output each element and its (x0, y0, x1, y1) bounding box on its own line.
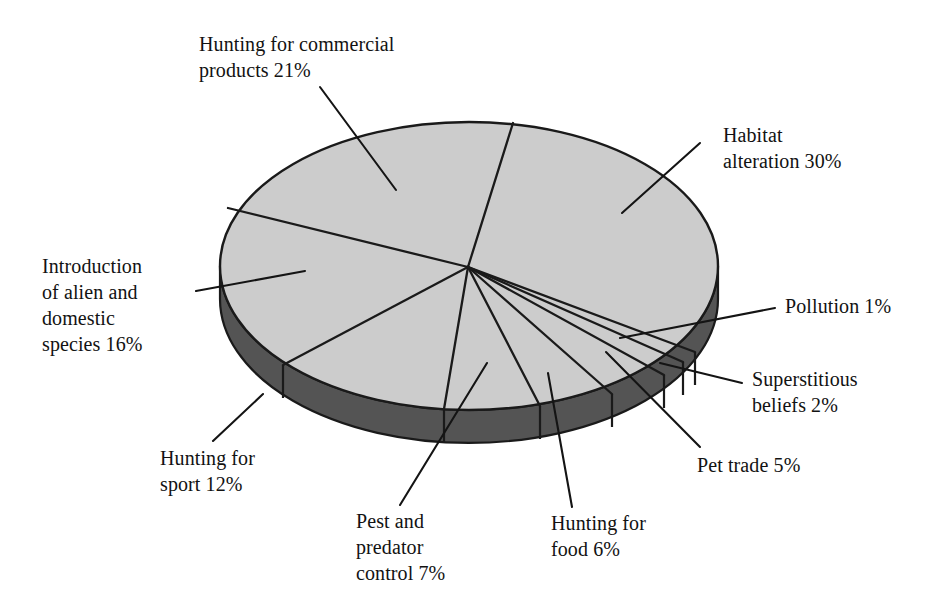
callout-label-introduction-alien: Introduction of alien and domestic speci… (42, 253, 197, 357)
callout-label-habitat-alteration: Habitat alteration 30% (723, 122, 923, 174)
pie-top-face (220, 122, 718, 410)
callout-label-superstitious: Superstitious beliefs 2% (752, 366, 922, 418)
leader-hunting-sport (213, 394, 263, 441)
callout-label-hunting-commercial: Hunting for commercial products 21% (199, 31, 449, 83)
callout-label-pollution: Pollution 1% (785, 293, 925, 319)
callout-label-hunting-sport: Hunting for sport 12% (160, 445, 320, 497)
callout-label-pest-predator: Pest and predator control 7% (356, 508, 496, 586)
callout-label-hunting-food: Hunting for food 6% (551, 510, 686, 562)
callout-label-pet-trade: Pet trade 5% (697, 452, 857, 478)
pie-chart-figure: Hunting for commercial products 21% Habi… (0, 0, 930, 603)
